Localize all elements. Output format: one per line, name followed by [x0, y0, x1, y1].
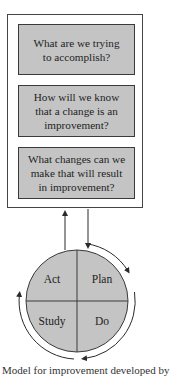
caption-cut-off: Model for improvement developed by: [2, 364, 152, 377]
quadrant-act: Act: [44, 273, 61, 285]
connector-arrows: [65, 209, 88, 250]
quadrant-do: Do: [95, 315, 109, 327]
quadrant-study: Study: [39, 315, 66, 328]
quadrant-plan: Plan: [92, 273, 113, 285]
pdsa-circle: [26, 250, 128, 352]
